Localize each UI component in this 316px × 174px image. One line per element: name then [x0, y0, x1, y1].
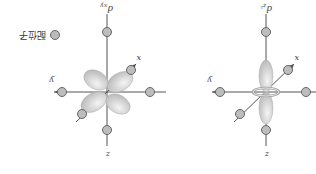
- axis-label-z: z: [105, 150, 111, 159]
- legend-label: 配位子: [19, 29, 46, 42]
- panel-dz2: z y x dz²: [207, 3, 316, 159]
- orbital-label-dz2: dz²: [260, 3, 272, 14]
- axis-label-x: x: [294, 54, 299, 63]
- axis-label-x: x: [136, 54, 141, 63]
- ligand-marker-icon: [50, 31, 60, 41]
- orbital-figure: z y x dxy z y x dz²: [0, 0, 316, 174]
- axis-label-y: y: [207, 76, 213, 85]
- orbital-label-dxy: dxy: [100, 2, 113, 14]
- axis-label-y: y: [49, 76, 55, 85]
- panel-dxy: z y x dxy: [49, 2, 166, 159]
- axis-label-z: z: [264, 150, 270, 159]
- orbital-diagram: z y x dxy z y x dz²: [0, 0, 316, 174]
- legend: 配位子: [19, 29, 60, 42]
